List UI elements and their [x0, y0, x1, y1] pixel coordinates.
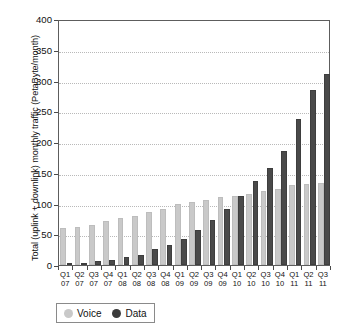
bar-data [124, 257, 130, 265]
y-axis-tick-label: 150 [8, 168, 52, 179]
bar-group [73, 21, 87, 265]
bar-data [310, 90, 316, 265]
bar-data [224, 209, 230, 265]
bar-voice [189, 202, 195, 265]
bar-data [210, 220, 216, 265]
bar-data [238, 196, 244, 265]
bar-group [131, 21, 145, 265]
bar-data [324, 74, 330, 265]
y-axis-tick-label: 100 [8, 199, 52, 210]
bar-data [195, 230, 201, 265]
y-axis-tick-label: 350 [8, 45, 52, 56]
chart-legend: Voice Data [56, 303, 155, 323]
bar-group [317, 21, 331, 265]
legend-item-voice: Voice [64, 308, 101, 319]
bar-voice [89, 225, 95, 265]
bar-data [138, 255, 144, 265]
bar-voice [318, 183, 324, 265]
bar-voice [146, 212, 152, 265]
bar-voice [289, 185, 295, 265]
y-axis-tick-label: 50 [8, 229, 52, 240]
y-axis-tick-label: 250 [8, 106, 52, 117]
bar-group [102, 21, 116, 265]
y-axis-tick-label: 300 [8, 76, 52, 87]
plot-area [58, 20, 330, 266]
bar-group [259, 21, 273, 265]
bar-data [109, 260, 115, 265]
y-axis-tick-label: 400 [8, 14, 52, 25]
bar-voice [75, 227, 81, 265]
bar-data [67, 263, 73, 265]
bar-data [95, 261, 101, 265]
bar-voice [160, 209, 166, 265]
bar-voice [218, 197, 224, 265]
bar-data [267, 168, 273, 265]
bar-group [174, 21, 188, 265]
bar-group [245, 21, 259, 265]
bar-voice [246, 194, 252, 265]
bar-data [81, 263, 87, 265]
bar-data [152, 249, 158, 265]
bar-voice [232, 196, 238, 265]
bar-group [302, 21, 316, 265]
bar-voice [118, 218, 124, 265]
bar-group [145, 21, 159, 265]
bar-group [159, 21, 173, 265]
legend-label-data: Data [125, 308, 146, 319]
bar-group [288, 21, 302, 265]
bar-group [216, 21, 230, 265]
bar-data [253, 181, 259, 265]
bar-group [274, 21, 288, 265]
y-axis-tick-label: 0 [8, 260, 52, 271]
bar-data [167, 245, 173, 265]
bar-voice [275, 189, 281, 265]
bar-group [88, 21, 102, 265]
bar-group [202, 21, 216, 265]
bar-voice [132, 216, 138, 265]
bar-group [188, 21, 202, 265]
bar-voice [175, 204, 181, 266]
bar-voice [304, 184, 310, 265]
bar-group [59, 21, 73, 265]
legend-swatch-data-icon [112, 309, 121, 318]
legend-label-voice: Voice [77, 308, 101, 319]
bar-group [231, 21, 245, 265]
y-axis-tick-label: 200 [8, 137, 52, 148]
chart-figure: Total (uplink + downlink) monthly traffi… [0, 0, 343, 333]
bar-data [296, 119, 302, 265]
x-axis-tick-label: Q311 [310, 270, 336, 289]
bar-voice [261, 191, 267, 265]
bar-voice [203, 200, 209, 265]
bar-voice [103, 221, 109, 265]
bar-data [281, 151, 287, 265]
bar-data [181, 239, 187, 265]
legend-swatch-voice-icon [64, 309, 73, 318]
bar-group [116, 21, 130, 265]
legend-item-data: Data [112, 308, 146, 319]
bar-voice [60, 228, 66, 265]
